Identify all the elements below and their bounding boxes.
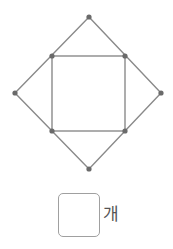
- point-right: [158, 90, 163, 95]
- outer-diamond: [15, 17, 161, 169]
- answer-input-box[interactable]: [58, 193, 100, 237]
- point-top: [86, 14, 91, 19]
- point-inner-bottom-left: [49, 128, 54, 133]
- geometry-figure: [0, 0, 173, 185]
- point-bottom: [86, 166, 91, 171]
- point-inner-top-left: [49, 53, 54, 58]
- point-inner-bottom-right: [122, 128, 127, 133]
- point-inner-top-right: [122, 53, 127, 58]
- unit-label: 개: [103, 204, 119, 224]
- point-left: [12, 90, 17, 95]
- inner-square: [52, 56, 125, 131]
- vertex-points: [12, 14, 163, 171]
